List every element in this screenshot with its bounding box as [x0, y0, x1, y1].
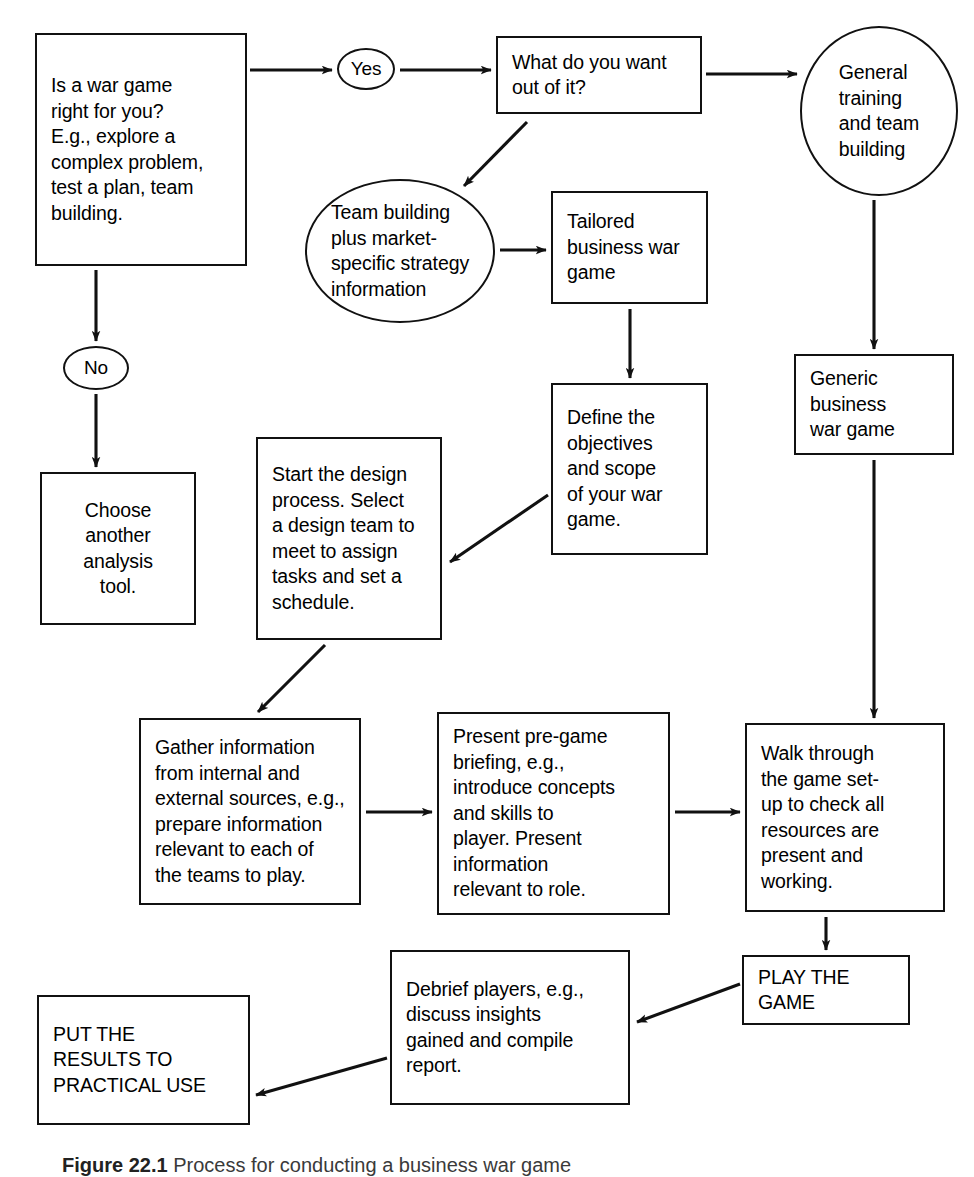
edge-play-to-debrief	[637, 984, 740, 1022]
node-label: Yes	[351, 56, 382, 82]
node-label: Present pre-game briefing, e.g., introdu…	[439, 724, 668, 903]
node-label: PLAY THE GAME	[744, 965, 908, 1016]
node-label: Is a war game right for you? E.g., explo…	[37, 73, 245, 226]
node-gather-information[interactable]: Gather information from internal and ext…	[139, 718, 361, 905]
node-label: No	[84, 355, 108, 381]
node-play-the-game[interactable]: PLAY THE GAME	[742, 955, 910, 1025]
node-label: Gather information from internal and ext…	[141, 735, 359, 888]
node-label: General training and team building	[833, 60, 926, 162]
node-start-the-design-process[interactable]: Start the design process. Select a desig…	[256, 437, 442, 640]
node-what-do-you-want[interactable]: What do you want out of it?	[496, 36, 702, 114]
node-define-objectives-and-scope[interactable]: Define the objectives and scope of your …	[551, 383, 708, 555]
edge-define-to-start-design	[450, 495, 548, 562]
node-no[interactable]: No	[63, 346, 129, 390]
node-choose-another-analysis-tool[interactable]: Choose another analysis tool.	[40, 472, 196, 625]
node-label: Tailored business war game	[553, 209, 706, 286]
node-label: Debrief players, e.g., discuss insights …	[392, 977, 628, 1079]
node-label: PUT THE RESULTS TO PRACTICAL USE	[39, 1022, 248, 1099]
node-label: Team building plus market- specific stra…	[325, 200, 475, 302]
figure-caption: Figure 22.1 Process for conducting a bus…	[62, 1152, 942, 1177]
node-label: Walk through the game set- up to check a…	[747, 741, 943, 894]
node-label: Define the objectives and scope of your …	[553, 405, 706, 533]
figure-number: Figure 22.1	[62, 1154, 168, 1176]
node-walk-through-game-setup[interactable]: Walk through the game set- up to check a…	[745, 723, 945, 912]
edge-what-to-team-building	[464, 122, 527, 186]
node-put-the-results-to-practical-use[interactable]: PUT THE RESULTS TO PRACTICAL USE	[37, 995, 250, 1125]
node-label: Generic business war game	[796, 366, 952, 443]
edge-start-design-to-gather	[258, 645, 325, 712]
edge-debrief-to-put-results	[256, 1058, 387, 1095]
node-yes[interactable]: Yes	[337, 48, 395, 90]
node-label: Choose another analysis tool.	[42, 498, 194, 600]
node-label: What do you want out of it?	[498, 50, 700, 101]
node-label: Start the design process. Select a desig…	[258, 462, 440, 615]
node-present-pre-game-briefing[interactable]: Present pre-game briefing, e.g., introdu…	[437, 712, 670, 915]
node-team-building-plus-market-info[interactable]: Team building plus market- specific stra…	[305, 179, 495, 323]
node-tailored-business-war-game[interactable]: Tailored business war game	[551, 191, 708, 304]
figure-caption-text: Process for conducting a business war ga…	[173, 1154, 571, 1176]
node-debrief-players[interactable]: Debrief players, e.g., discuss insights …	[390, 950, 630, 1105]
node-is-war-game-right[interactable]: Is a war game right for you? E.g., explo…	[35, 33, 247, 266]
flowchart-figure: Is a war game right for you? E.g., explo…	[0, 0, 974, 1177]
node-generic-business-war-game[interactable]: Generic business war game	[794, 354, 954, 455]
node-general-training-and-team-building[interactable]: General training and team building	[800, 26, 958, 196]
